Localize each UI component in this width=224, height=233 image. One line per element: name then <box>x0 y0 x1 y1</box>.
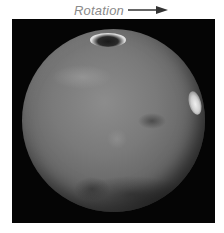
right-arrow-icon <box>128 5 168 15</box>
rotation-label: Rotation <box>74 3 124 18</box>
rotation-caption: Rotation <box>74 2 168 18</box>
planet-image-panel <box>12 19 215 223</box>
mars-planet <box>22 29 205 212</box>
polar-cap <box>90 33 126 47</box>
limb-cloud <box>186 90 204 116</box>
